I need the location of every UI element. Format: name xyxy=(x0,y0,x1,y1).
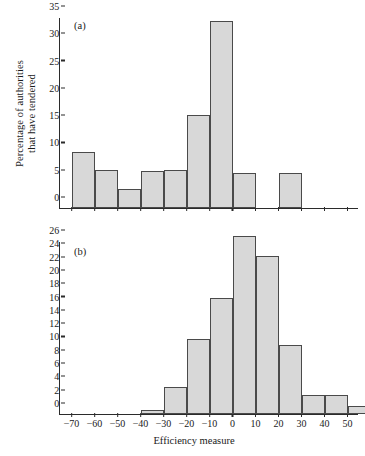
y-tick-mark xyxy=(61,389,65,390)
bar xyxy=(302,395,325,414)
x-tick-a-12: 50 xyxy=(343,208,353,223)
x-tick-a-10: 30 xyxy=(297,208,307,223)
bar xyxy=(95,170,118,208)
x-tick-a-2: −50 xyxy=(110,208,126,223)
x-tick-a-9: 20 xyxy=(274,208,284,223)
figure-histograms: Percentage of authorities that have tend… xyxy=(0,0,365,456)
y-tick-a-6: 30 xyxy=(49,28,60,39)
y-tick-mark xyxy=(61,229,65,230)
x-tick-a-3: −40 xyxy=(133,208,149,223)
y-tick-label: 6 xyxy=(54,358,61,369)
y-tick-label: 25 xyxy=(49,55,61,66)
x-tick-label: 30 xyxy=(297,417,307,429)
y-tick-mark xyxy=(61,87,65,88)
bar xyxy=(210,298,233,414)
y-tick-mark xyxy=(61,349,65,350)
x-tick-b-12: 50 xyxy=(343,414,353,429)
x-tick-b-7: 0 xyxy=(230,414,235,429)
plot-area-b: (b) 02468101214161820222426−70−60−50−40−… xyxy=(59,242,358,415)
y-tick-mark xyxy=(61,376,65,377)
y-tick-mark xyxy=(61,169,65,170)
bar xyxy=(210,21,233,208)
y-tick-label: 22 xyxy=(49,251,61,262)
bar xyxy=(72,152,95,208)
x-tick-b-5: −20 xyxy=(179,414,195,429)
y-tick-mark xyxy=(61,323,65,324)
x-tick-label: 40 xyxy=(320,417,330,429)
y-tick-label: 35 xyxy=(49,1,61,12)
bar xyxy=(325,395,348,414)
y-tick-mark xyxy=(61,362,65,363)
y-axis-label-a: Percentage of authorities that have tend… xyxy=(14,18,37,209)
panel-tag-a: (a) xyxy=(74,20,86,31)
y-tick-b-11: 22 xyxy=(49,251,60,262)
y-tick-mark xyxy=(61,309,65,310)
y-tick-mark xyxy=(61,296,65,297)
x-tick-b-11: 40 xyxy=(320,414,330,429)
bar xyxy=(164,387,187,414)
y-tick-mark xyxy=(61,243,65,244)
bar xyxy=(348,406,365,414)
y-tick-label: 4 xyxy=(54,371,61,382)
bar xyxy=(279,345,302,414)
y-tick-a-7: 35 xyxy=(49,1,60,12)
y-tick-b-12: 24 xyxy=(49,238,60,249)
y-tick-mark xyxy=(61,269,65,270)
bar xyxy=(118,189,141,208)
x-tick-a-6: −10 xyxy=(202,208,218,223)
y-tick-label: 26 xyxy=(49,225,61,236)
x-tick-label: 50 xyxy=(343,417,353,429)
plot-area-a: (a) 05101520253035−70−60−50−40−30−20−100… xyxy=(59,18,358,209)
y-tick-label: 16 xyxy=(49,291,61,302)
bar xyxy=(233,236,256,414)
y-tick-b-8: 16 xyxy=(49,291,60,302)
y-tick-label: 24 xyxy=(49,238,61,249)
y-tick-b-6: 12 xyxy=(49,318,60,329)
panel-a: Percentage of authorities that have tend… xyxy=(0,0,365,228)
y-tick-a-2: 10 xyxy=(49,137,60,148)
x-tick-b-0: −70 xyxy=(64,414,80,429)
y-tick-label: 18 xyxy=(49,278,61,289)
y-tick-b-3: 6 xyxy=(54,358,60,369)
x-tick-a-5: −20 xyxy=(179,208,195,223)
x-tick-label: −20 xyxy=(179,417,195,429)
x-tick-a-7: 0 xyxy=(230,208,235,223)
y-tick-label: 0 xyxy=(54,398,61,409)
y-tick-label: 20 xyxy=(49,82,61,93)
bar xyxy=(233,173,256,208)
x-tick-b-8: 10 xyxy=(251,414,261,429)
y-tick-label: 8 xyxy=(54,344,61,355)
x-tick-mark xyxy=(324,207,325,211)
y-tick-label: 15 xyxy=(49,110,61,121)
x-tick-a-0: −70 xyxy=(64,208,80,223)
y-tick-a-5: 25 xyxy=(49,55,60,66)
x-tick-a-11: 40 xyxy=(320,208,330,223)
y-tick-mark xyxy=(61,33,65,34)
y-tick-b-0: 0 xyxy=(54,398,60,409)
y-tick-b-13: 26 xyxy=(49,225,60,236)
x-tick-a-1: −60 xyxy=(87,208,103,223)
bar xyxy=(164,170,187,208)
y-tick-b-10: 20 xyxy=(49,264,60,275)
y-tick-b-2: 4 xyxy=(54,371,60,382)
x-tick-label: 20 xyxy=(274,417,284,429)
bar xyxy=(187,339,210,414)
y-tick-mark xyxy=(61,256,65,257)
x-tick-b-9: 20 xyxy=(274,414,284,429)
y-tick-mark xyxy=(61,402,65,403)
bar xyxy=(256,256,279,414)
bar xyxy=(141,171,164,208)
x-tick-label: −50 xyxy=(110,417,126,429)
y-tick-a-3: 15 xyxy=(49,110,60,121)
y-tick-mark xyxy=(61,142,65,143)
y-tick-mark xyxy=(61,336,65,337)
y-tick-a-4: 20 xyxy=(49,82,60,93)
x-tick-label: −30 xyxy=(156,417,172,429)
y-tick-mark xyxy=(61,60,65,61)
y-tick-label: 30 xyxy=(49,28,61,39)
x-tick-a-8: 10 xyxy=(251,208,261,223)
x-tick-b-1: −60 xyxy=(87,414,103,429)
y-tick-b-1: 2 xyxy=(54,384,60,395)
x-tick-label: −40 xyxy=(133,417,149,429)
y-tick-mark xyxy=(61,283,65,284)
